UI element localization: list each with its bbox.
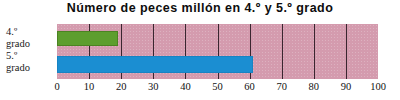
- x-tick-label-100: 100: [370, 81, 386, 92]
- x-tick-label-60: 60: [244, 81, 255, 92]
- gridline-100: [378, 24, 379, 79]
- x-tick-label-30: 30: [148, 81, 159, 92]
- x-tick-label-50: 50: [212, 81, 223, 92]
- x-tick-label-10: 10: [84, 81, 95, 92]
- gridline-70: [282, 24, 283, 79]
- plot-area: [57, 24, 378, 79]
- chart-title: Número de peces millón en 4.º y 5.º grad…: [0, 1, 400, 15]
- x-axis-tick-labels: 0102030405060708090100: [0, 81, 400, 97]
- gridline-80: [314, 24, 315, 79]
- gridline-90: [346, 24, 347, 79]
- x-tick-label-70: 70: [276, 81, 287, 92]
- bar-5-grado: [57, 56, 253, 73]
- x-tick-label-20: 20: [116, 81, 127, 92]
- category-label-5-grado-line1: 5.º: [6, 50, 30, 62]
- category-label-4-grado: 4.º grado: [6, 26, 30, 49]
- x-tick-label-40: 40: [180, 81, 191, 92]
- bar-4-grado: [57, 31, 118, 46]
- x-tick-label-90: 90: [341, 81, 352, 92]
- category-label-5-grado: 5.º grado: [6, 50, 30, 73]
- category-label-4-grado-line1: 4.º: [6, 26, 30, 38]
- category-axis-labels: 4.º grado 5.º grado: [0, 26, 55, 82]
- x-tick-label-0: 0: [54, 81, 59, 92]
- category-label-4-grado-line2: grado: [6, 38, 30, 50]
- category-label-5-grado-line2: grado: [6, 62, 30, 74]
- chart-screenshot: Número de peces millón en 4.º y 5.º grad…: [0, 0, 400, 100]
- x-tick-label-80: 80: [309, 81, 320, 92]
